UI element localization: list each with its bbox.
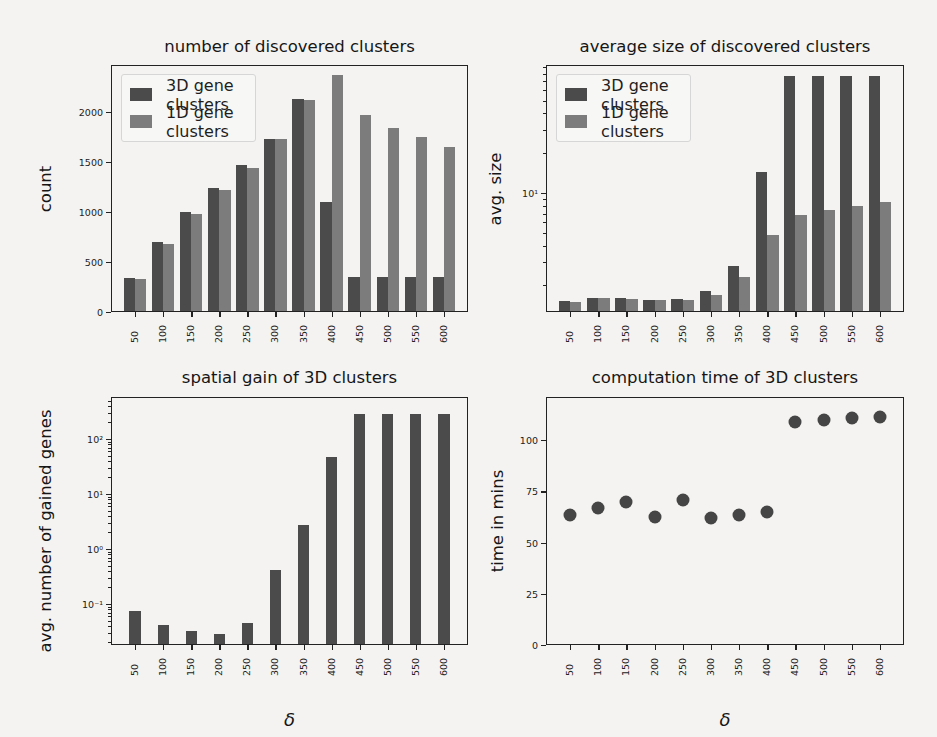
y-minor-tick [108, 621, 111, 622]
bar-3d [671, 299, 682, 311]
x-tick-label: 350 [733, 325, 744, 343]
y-tick-mark [541, 543, 546, 544]
x-tick-mark [824, 312, 825, 317]
bar-1d [570, 302, 581, 311]
x-tick-label: 100 [592, 658, 603, 676]
x-tick-mark [163, 312, 164, 317]
y-minor-tick [108, 451, 111, 452]
y-minor-tick [108, 461, 111, 462]
x-tick-label: 450 [354, 658, 365, 676]
scatter-point [761, 505, 774, 518]
bar-1d [219, 190, 230, 311]
scatter-point [648, 511, 661, 524]
y-minor-tick [108, 468, 111, 469]
bar-1d [683, 300, 694, 311]
bar-1d [416, 137, 427, 311]
x-tick-label: 500 [382, 325, 393, 343]
y-minor-tick [543, 90, 546, 91]
bar-1d [304, 100, 315, 311]
legend-swatch [565, 115, 587, 128]
bar-3d [840, 76, 851, 311]
x-tick-label: 150 [185, 325, 196, 343]
y-minor-tick [108, 626, 111, 627]
y-tick-mark [106, 549, 111, 550]
x-tick-mark [275, 312, 276, 317]
bar-1d [444, 147, 455, 311]
bar-1d [191, 214, 202, 311]
y-minor-tick [543, 285, 546, 286]
y-minor-tick [108, 571, 111, 572]
x-tick-label: 450 [354, 325, 365, 343]
x-tick-label: 450 [789, 325, 800, 343]
y-minor-tick [108, 422, 111, 423]
y-minor-tick [108, 558, 111, 559]
bar-3d [129, 611, 140, 644]
y-minor-tick [543, 113, 546, 114]
bar-3d [405, 277, 416, 311]
bar-3d [728, 266, 739, 311]
x-tick-label: 200 [649, 658, 660, 676]
x-tick-label: 400 [761, 658, 772, 676]
legend-label: 1D gene clusters [166, 103, 245, 141]
bar-1d [655, 300, 666, 311]
x-tick-mark [444, 645, 445, 650]
x-tick-mark [626, 645, 627, 650]
bar-1d [824, 210, 835, 311]
y-tick-mark [106, 604, 111, 605]
x-tick-label: 600 [874, 658, 885, 676]
x-tick-mark [880, 645, 881, 650]
bar-1d [880, 202, 891, 311]
x-tick-label: 300 [269, 658, 280, 676]
x-tick-mark [332, 312, 333, 317]
x-tick-label: 50 [129, 331, 140, 343]
legend-label: 1D gene clusters [601, 103, 680, 141]
y-tick-label: 500 [53, 257, 103, 268]
scatter-point [620, 495, 633, 508]
x-tick-mark [683, 312, 684, 317]
bar-1d [163, 244, 174, 311]
y-minor-tick [108, 448, 111, 449]
x-tick-mark [275, 645, 276, 650]
y-minor-tick [108, 497, 111, 498]
x-tick-label: 350 [733, 658, 744, 676]
y-minor-tick [108, 642, 111, 643]
y-minor-tick [108, 401, 111, 402]
x-tick-mark [852, 645, 853, 650]
x-tick-mark [444, 312, 445, 317]
y-minor-tick [108, 613, 111, 614]
bar-1d [360, 115, 371, 311]
y-minor-tick [543, 199, 546, 200]
y-minor-tick [543, 206, 546, 207]
chart-title: number of discovered clusters [164, 37, 415, 56]
x-tick-label: 600 [438, 658, 449, 676]
y-tick-mark [106, 212, 111, 213]
y-tick-mark [541, 491, 546, 492]
x-tick-mark [598, 645, 599, 650]
bar-3d [438, 414, 449, 644]
y-tick-mark [106, 162, 111, 163]
x-tick-label: 150 [185, 658, 196, 676]
x-tick-mark [767, 645, 768, 650]
x-tick-mark [163, 645, 164, 650]
x-tick-label: 100 [592, 325, 603, 343]
x-tick-label: 500 [382, 658, 393, 676]
x-tick-label: 600 [438, 325, 449, 343]
x-tick-mark [304, 312, 305, 317]
x-tick-mark [135, 645, 136, 650]
x-tick-label: 350 [298, 658, 309, 676]
y-minor-tick [108, 607, 111, 608]
y-tick-label: 10⁻¹ [53, 599, 103, 610]
y-tick-mark [541, 645, 546, 646]
bar-3d [784, 76, 795, 311]
y-minor-tick [108, 456, 111, 457]
y-minor-tick [543, 153, 546, 154]
x-tick-label: 250 [241, 658, 252, 676]
x-tick-label: 300 [705, 325, 716, 343]
bar-3d [186, 631, 197, 644]
legend-item: 1D gene clusters [565, 108, 680, 135]
x-tick-label: 550 [410, 325, 421, 343]
y-minor-tick [108, 506, 111, 507]
x-tick-label: 550 [846, 658, 857, 676]
scatter-point [733, 509, 746, 522]
x-tick-mark [739, 645, 740, 650]
